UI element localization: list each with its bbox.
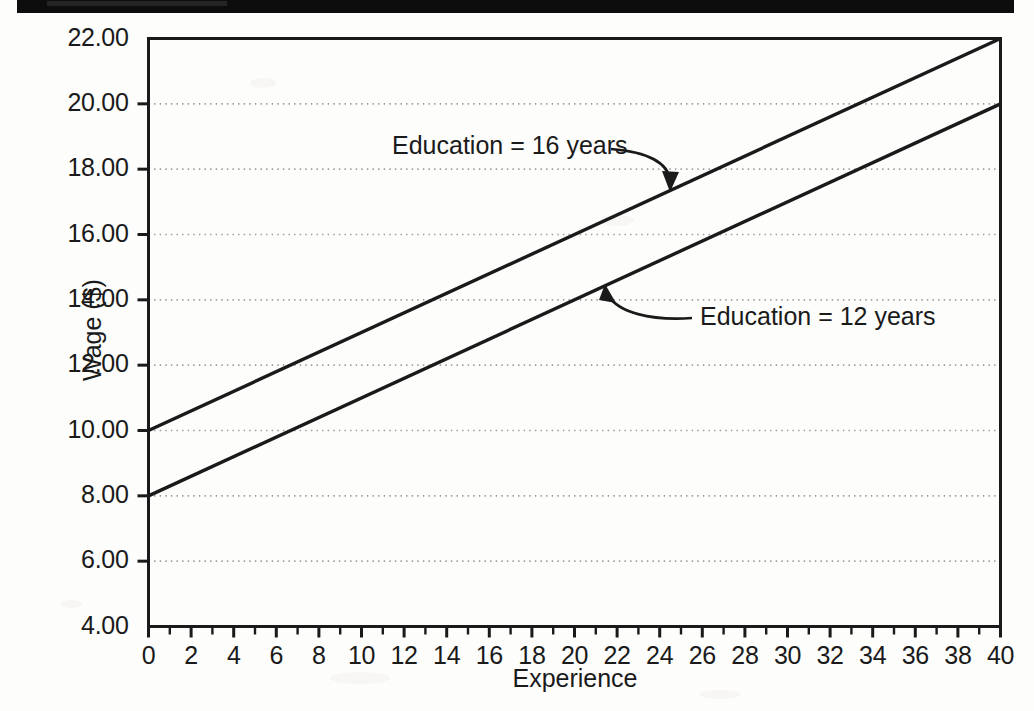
- y-axis-tick-label: 10.00: [0, 415, 129, 444]
- annotation-label-education-16: Education = 16 years: [392, 131, 628, 160]
- annotation-label-education-12: Education = 12 years: [700, 302, 936, 331]
- y-axis-tick-label: 8.00: [0, 480, 129, 509]
- x-axis-title-text: Experience: [512, 664, 637, 692]
- y-axis-title: Wage ($): [78, 230, 107, 430]
- figure-canvas: 22.0020.0018.0016.0014.0012.0010.008.006…: [0, 0, 1034, 711]
- y-axis-tick-label: 22.00: [0, 23, 129, 52]
- y-axis-tick-label: 6.00: [0, 545, 129, 574]
- y-axis-tick-label: 12.00: [0, 349, 129, 378]
- y-axis-tick-label: 14.00: [0, 284, 129, 313]
- y-axis-tick-label: 16.00: [0, 219, 129, 248]
- y-axis-tick-label: 20.00: [0, 88, 129, 117]
- plot-area-frame: [147, 37, 1002, 628]
- x-axis-title: Experience: [0, 664, 1034, 693]
- y-axis-tick-label: 4.00: [0, 611, 129, 640]
- y-axis-tick-label: 18.00: [0, 153, 129, 182]
